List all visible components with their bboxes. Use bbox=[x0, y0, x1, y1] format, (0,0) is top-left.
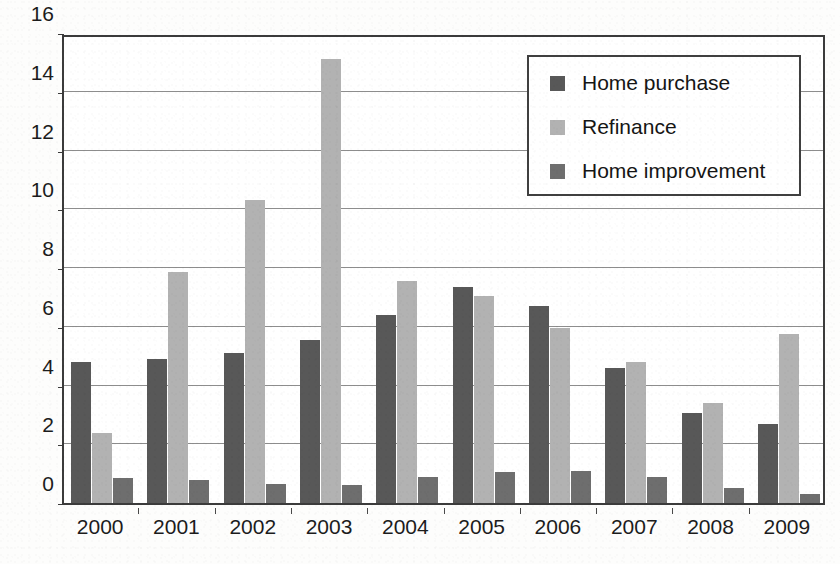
x-tick-mark bbox=[672, 508, 673, 514]
bar[interactable] bbox=[647, 477, 667, 503]
bar[interactable] bbox=[189, 480, 209, 504]
y-tick-label: 4 bbox=[10, 356, 54, 377]
x-axis: 2000200120022003200420052006200720082009 bbox=[62, 508, 825, 548]
x-tick-label: 2009 bbox=[749, 516, 825, 538]
x-tick-mark bbox=[291, 508, 292, 514]
bar[interactable] bbox=[321, 59, 341, 503]
y-tick-label: 10 bbox=[10, 179, 54, 200]
bar[interactable] bbox=[571, 471, 591, 503]
x-tick-mark bbox=[367, 508, 368, 514]
legend-item-label: Refinance bbox=[582, 116, 677, 138]
bar[interactable] bbox=[71, 362, 91, 503]
legend-item-label: Home purchase bbox=[582, 72, 730, 94]
x-tick-label: 2004 bbox=[367, 516, 443, 538]
x-tick-mark bbox=[444, 508, 445, 514]
y-tick-label: 12 bbox=[10, 121, 54, 142]
bar[interactable] bbox=[245, 200, 265, 503]
bar[interactable] bbox=[605, 368, 625, 503]
bar[interactable] bbox=[626, 362, 646, 503]
gridline bbox=[64, 267, 823, 268]
bar[interactable] bbox=[168, 272, 188, 503]
bar[interactable] bbox=[397, 281, 417, 503]
bar[interactable] bbox=[682, 413, 702, 503]
x-tick-mark bbox=[520, 508, 521, 514]
y-tick-label: 6 bbox=[10, 297, 54, 318]
bar[interactable] bbox=[113, 478, 133, 503]
legend-item[interactable]: Home purchase bbox=[550, 70, 730, 96]
x-tick-label: 2005 bbox=[444, 516, 520, 538]
legend-swatch-refinance bbox=[550, 120, 565, 135]
x-tick-mark bbox=[215, 508, 216, 514]
legend-item-label: Home improvement bbox=[582, 160, 765, 182]
bar[interactable] bbox=[724, 488, 744, 503]
bar[interactable] bbox=[342, 485, 362, 503]
bar[interactable] bbox=[92, 433, 112, 504]
bar[interactable] bbox=[376, 315, 396, 503]
legend-item[interactable]: Refinance bbox=[550, 114, 677, 140]
bar[interactable] bbox=[300, 340, 320, 503]
bar-chart-figure: 0246810121416 20002001200220032004200520… bbox=[0, 0, 840, 564]
y-axis: 0246810121416 bbox=[0, 35, 54, 505]
bar[interactable] bbox=[266, 484, 286, 503]
x-tick-label: 2001 bbox=[138, 516, 214, 538]
bar[interactable] bbox=[529, 306, 549, 503]
bar[interactable] bbox=[779, 334, 799, 503]
x-tick-label: 2002 bbox=[215, 516, 291, 538]
bar[interactable] bbox=[418, 477, 438, 503]
x-tick-label: 2006 bbox=[520, 516, 596, 538]
bar[interactable] bbox=[703, 403, 723, 503]
gridline bbox=[64, 208, 823, 209]
bar[interactable] bbox=[495, 472, 515, 503]
chart-legend: Home purchase Refinance Home improvement bbox=[527, 55, 801, 196]
x-tick-label: 2008 bbox=[672, 516, 748, 538]
legend-item[interactable]: Home improvement bbox=[550, 158, 765, 184]
x-tick-mark bbox=[749, 508, 750, 514]
bar[interactable] bbox=[453, 287, 473, 503]
y-tick-label: 2 bbox=[10, 414, 54, 435]
x-tick-mark bbox=[596, 508, 597, 514]
legend-swatch-home-purchase bbox=[550, 76, 565, 91]
y-tick-label: 0 bbox=[10, 473, 54, 494]
bar[interactable] bbox=[758, 424, 778, 503]
bar[interactable] bbox=[147, 359, 167, 503]
bar[interactable] bbox=[800, 494, 820, 503]
x-tick-label: 2007 bbox=[596, 516, 672, 538]
y-tick-label: 16 bbox=[10, 3, 54, 24]
x-tick-label: 2003 bbox=[291, 516, 367, 538]
bar[interactable] bbox=[224, 353, 244, 503]
y-tick-label: 8 bbox=[10, 238, 54, 259]
bar[interactable] bbox=[474, 296, 494, 503]
x-tick-label: 2000 bbox=[62, 516, 138, 538]
x-tick-mark bbox=[138, 508, 139, 514]
bar[interactable] bbox=[550, 328, 570, 503]
y-tick-label: 14 bbox=[10, 62, 54, 83]
legend-swatch-home-improvement bbox=[550, 164, 565, 179]
